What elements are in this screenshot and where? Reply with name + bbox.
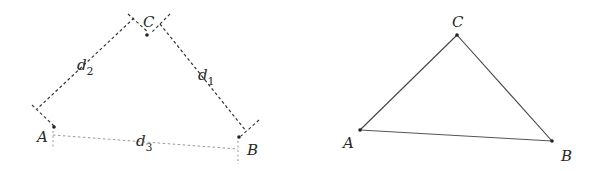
label-d3-sub: 3 — [146, 141, 153, 154]
label-c-right: C — [452, 13, 464, 31]
point-c-left — [145, 33, 149, 37]
point-b-left — [237, 135, 241, 139]
diagram-canvas: C A B d2 d1 d3 C A B — [0, 0, 595, 171]
label-c-left: C — [143, 13, 155, 31]
label-d1-base: d — [198, 66, 208, 84]
point-a-right — [358, 128, 362, 132]
label-d2-base: d — [77, 56, 87, 74]
point-b-right — [550, 139, 554, 143]
label-d1-sub: 1 — [208, 75, 215, 88]
right-figure: C A B — [341, 13, 572, 165]
label-d2: d2 — [77, 56, 94, 78]
edge-cb — [457, 35, 552, 141]
edge-ac — [360, 35, 457, 130]
label-a-right: A — [341, 134, 354, 152]
label-d1: d1 — [198, 66, 215, 88]
tick-a — [32, 105, 54, 126]
label-d2-sub: 2 — [87, 65, 94, 78]
point-c-right — [455, 33, 459, 37]
edge-ab — [360, 130, 552, 141]
point-a-left — [52, 125, 56, 129]
label-d3-base: d — [136, 132, 146, 150]
label-d3: d3 — [136, 132, 153, 154]
label-b-right: B — [560, 147, 572, 165]
left-figure: C A B d2 d1 d3 — [32, 13, 259, 164]
label-b-left: B — [246, 141, 258, 159]
label-a-left: A — [35, 128, 48, 146]
